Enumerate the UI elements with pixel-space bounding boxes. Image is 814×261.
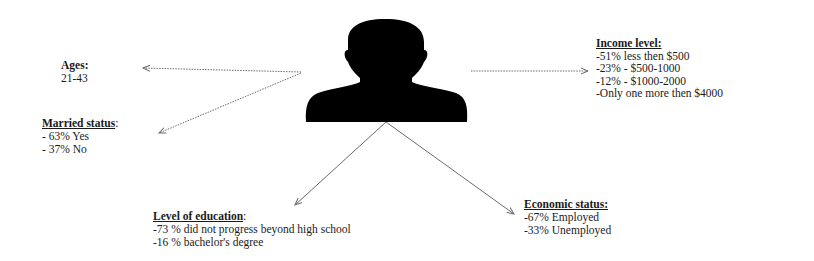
- income-item: -51% less then $500: [596, 50, 723, 63]
- married-status-colon: :: [115, 117, 118, 129]
- person-silhouette-icon: [306, 19, 467, 122]
- economic-item: -33% Unemployed: [524, 224, 611, 237]
- married-status-heading: Married status: [42, 117, 115, 129]
- education-item: -73 % did not progress beyond high schoo…: [153, 223, 351, 236]
- income-item: -Only one more then $4000: [596, 87, 723, 100]
- income-level-block: Income level: -51% less then $500 -23% -…: [596, 37, 723, 100]
- arrow-ages: [143, 68, 301, 72]
- economic-item: -67% Employed: [524, 211, 611, 224]
- married-status-block: Married status: - 63% Yes - 37% No: [42, 117, 118, 156]
- arrow-economic: [386, 122, 514, 214]
- education-heading: Level of education: [153, 210, 243, 222]
- married-item-no: - 37% No: [42, 143, 118, 156]
- income-item: -23% - $500-1000: [596, 62, 723, 75]
- ages-item: 21-43: [61, 72, 88, 85]
- education-block: Level of education: -73 % did not progre…: [153, 210, 351, 249]
- arrow-married: [159, 73, 301, 133]
- ages-heading: Ages:: [61, 59, 88, 71]
- education-item: -16 % bachelor's degree: [153, 236, 351, 249]
- income-item: -12% - $1000-2000: [596, 75, 723, 88]
- economic-status-block: Economic status: -67% Employed -33% Unem…: [524, 198, 611, 237]
- arrow-education: [295, 122, 386, 205]
- education-colon: :: [243, 210, 246, 222]
- income-level-heading: Income level:: [596, 37, 661, 49]
- married-item-yes: - 63% Yes: [42, 130, 118, 143]
- ages-block: Ages: 21-43: [61, 59, 88, 85]
- economic-status-heading: Economic status:: [524, 198, 608, 210]
